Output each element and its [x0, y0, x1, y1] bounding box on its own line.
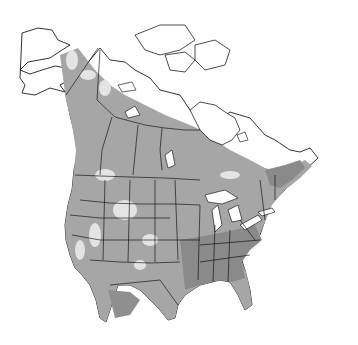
arctic-islands [135, 25, 230, 72]
north-america-map [0, 0, 358, 345]
range-map [0, 0, 358, 345]
range-high-density-mexico [108, 290, 140, 318]
